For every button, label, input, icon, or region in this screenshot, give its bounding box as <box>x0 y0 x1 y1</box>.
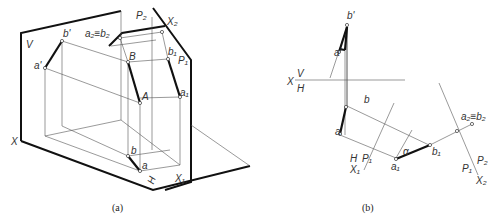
label-a2-b2-b: a₂≡b₂ <box>461 111 486 122</box>
label-a1: a₁ <box>180 87 189 98</box>
label-P1-b: P₁ <box>362 153 372 164</box>
label-b-b: b <box>364 94 370 105</box>
label-P2: P₂ <box>136 10 147 21</box>
label-X2-b: X₂ <box>475 175 487 186</box>
label-X1: X₁ <box>174 173 185 184</box>
label-b-prime: b' <box>63 28 72 39</box>
label-b-prime-b: b' <box>347 10 356 21</box>
label-b1: b₁ <box>168 46 177 57</box>
label-H-b: H <box>297 83 305 94</box>
label-X-b: X <box>286 76 294 87</box>
label-a: a <box>142 160 148 171</box>
points-b <box>337 23 473 160</box>
p2-plane-edge <box>109 26 165 46</box>
segment-a1-b1-b <box>396 145 430 159</box>
label-H2-b: H <box>350 153 358 164</box>
label-a-prime-b: a' <box>334 47 343 58</box>
label-P2-b: P₂ <box>477 155 488 166</box>
label-X2: X₂ <box>166 16 178 27</box>
segment-AB <box>128 62 140 103</box>
label-b: b <box>131 145 137 156</box>
segment-a-prime-b-prime <box>45 41 62 68</box>
label-X1-b: X₁ <box>349 164 360 175</box>
label-alpha-b: α <box>403 146 409 157</box>
descriptive-geometry-figure: V X H b' a' B A b a a₂≡b₂ P₂ X₂ b₁ P₁ a₁… <box>0 0 497 218</box>
construction-lines-b <box>295 27 478 175</box>
label-a1-b: a₁ <box>391 161 400 172</box>
caption-b: (b) <box>362 202 374 214</box>
caption-a: (a) <box>112 202 123 214</box>
p1-plane-edge <box>153 8 191 190</box>
label-H: H <box>145 174 158 185</box>
label-A: A <box>141 91 149 102</box>
figure-b: b' a' X V H b a H P₁ X₁ a₁ α b₁ a₂≡b₂ P₁… <box>286 10 488 214</box>
label-P1b-b: P₁ <box>462 163 472 174</box>
label-b1-b: b₁ <box>432 146 441 157</box>
label-B: B <box>129 51 136 62</box>
label-X: X <box>10 136 18 147</box>
label-V-b: V <box>297 68 305 79</box>
label-a2-b2: a₂≡b₂ <box>85 28 110 39</box>
label-P1: P₁ <box>178 55 188 66</box>
figure-a: V X H b' a' B A b a a₂≡b₂ P₂ X₂ b₁ P₁ a₁… <box>10 8 250 214</box>
label-a-b: a <box>335 126 341 137</box>
label-V: V <box>26 39 34 50</box>
label-a-prime: a' <box>34 60 43 71</box>
